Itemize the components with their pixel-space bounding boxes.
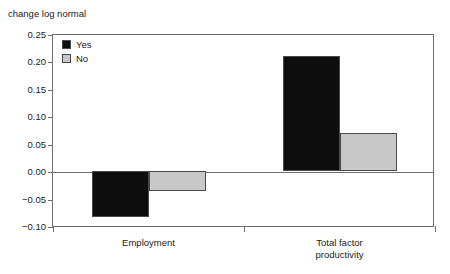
y-tick-label: 0.25	[28, 30, 47, 40]
legend-swatch-no-icon	[62, 54, 71, 63]
legend: Yes No	[62, 38, 92, 66]
y-tick-label: −0.05	[22, 195, 46, 205]
bar-chart: change log normal 0.250.200.150.100.050.…	[0, 0, 450, 274]
y-tick-label: −0.10	[22, 222, 46, 232]
legend-item-yes[interactable]: Yes	[62, 38, 92, 51]
y-tick-mark	[48, 35, 53, 36]
x-tick-mark	[244, 226, 245, 232]
bar-yes-1[interactable]	[283, 56, 340, 171]
axis-line-top	[53, 34, 433, 35]
y-tick-label: 0.10	[28, 112, 47, 122]
y-tick-mark	[48, 117, 53, 118]
legend-label-no: No	[76, 54, 88, 64]
y-tick-label: 0.00	[28, 167, 47, 177]
x-tick-mark	[435, 226, 436, 232]
y-tick-mark	[48, 172, 53, 173]
y-axis-title: change log normal	[8, 8, 86, 20]
y-tick-mark	[48, 62, 53, 63]
plot-area: 0.250.200.150.100.050.00−0.05−0.10 Emplo…	[52, 34, 434, 227]
bar-no-1[interactable]	[340, 133, 397, 171]
legend-label-yes: Yes	[76, 40, 92, 50]
legend-item-no[interactable]: No	[62, 52, 92, 65]
y-tick-mark	[48, 145, 53, 146]
y-tick-mark	[48, 90, 53, 91]
bar-no-0[interactable]	[149, 171, 206, 191]
y-tick-mark	[48, 200, 53, 201]
bar-yes-0[interactable]	[92, 171, 149, 217]
x-tick-mark	[53, 226, 54, 232]
y-tick-label: 0.20	[28, 57, 47, 67]
axis-line-bottom	[53, 226, 433, 227]
x-axis-label: Employment	[122, 237, 175, 249]
y-tick-label: 0.05	[28, 140, 47, 150]
legend-swatch-yes-icon	[62, 40, 71, 49]
y-tick-label: 0.15	[28, 85, 47, 95]
x-axis-label: Total factor productivity	[315, 237, 363, 261]
